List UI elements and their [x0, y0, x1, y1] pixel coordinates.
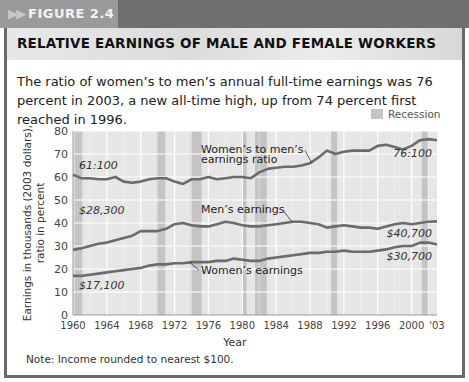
annotation-ratio-line2: earnings ratio — [201, 153, 278, 166]
y-tick-label: 60 — [54, 171, 68, 184]
x-tick-label: 1980 — [230, 320, 255, 331]
y-tick-label: 70 — [54, 148, 68, 161]
y-tick-label: 20 — [54, 263, 68, 276]
x-tick-label: 1988 — [297, 320, 322, 331]
annotation-women: Women’s earnings — [201, 264, 303, 277]
legend-recession-label: Recession — [388, 108, 440, 120]
series-start-label: $28,300 — [79, 204, 125, 217]
x-tick-label: 1992 — [331, 320, 356, 331]
x-tick-label: 1964 — [94, 320, 119, 331]
x-tick-label: 1960 — [60, 320, 85, 331]
x-tick-label: 1972 — [162, 320, 187, 331]
x-tick-label: 1996 — [365, 320, 390, 331]
x-tick-label: 2000 — [399, 320, 424, 331]
legend-recession-swatch — [371, 109, 383, 119]
y-tick-label: 80 — [54, 125, 68, 138]
x-tick-label: 1984 — [263, 320, 288, 331]
series-start-label: $17,100 — [79, 279, 125, 292]
series-start-label: 61:100 — [79, 159, 118, 172]
series-end-label: 76:100 — [393, 147, 432, 160]
y-axis-title: Earnings in thousands (2003 dollars),rat… — [21, 125, 46, 321]
y-tick-label: 40 — [54, 217, 68, 230]
x-tick-label: 1968 — [128, 320, 153, 331]
x-tick-label: '03 — [429, 320, 444, 331]
figure-note: Note: Income rounded to nearest $100. — [26, 353, 234, 365]
x-axis-title: Year — [222, 336, 247, 349]
series-end-label: $30,700 — [387, 250, 433, 263]
series-end-label: $40,700 — [387, 227, 433, 240]
y-tick-label: 30 — [54, 240, 68, 253]
y-tick-label: 50 — [54, 194, 68, 207]
earnings-chart: 0102030405060708019601964196819721976198… — [0, 0, 469, 382]
annotation-men: Men’s earnings — [201, 203, 285, 216]
x-tick-label: 1976 — [196, 320, 221, 331]
y-tick-label: 10 — [54, 286, 68, 299]
